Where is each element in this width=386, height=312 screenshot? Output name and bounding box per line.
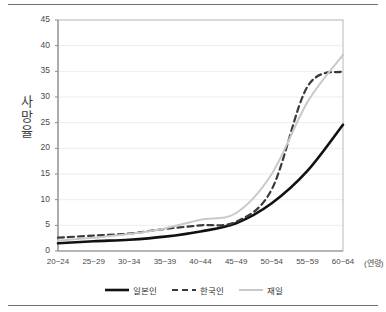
x-axis-tick-label: 45~49 xyxy=(216,257,256,266)
x-axis-tick-label: 25~29 xyxy=(74,257,114,266)
legend-swatch-icon xyxy=(104,285,130,295)
figure-container: 사망율 051015202530354045 20~2425~2930~3435… xyxy=(0,0,386,312)
x-axis-tick-label: 35~39 xyxy=(145,257,185,266)
legend-label: 한국인 xyxy=(200,284,224,296)
y-axis-tick-label: 30 xyxy=(28,91,50,101)
y-axis-tick-label: 20 xyxy=(28,142,50,152)
y-axis-tick-label: 10 xyxy=(28,194,50,204)
plot-frame xyxy=(55,20,343,251)
legend-swatch-icon xyxy=(171,285,197,295)
y-axis-tick-label: 25 xyxy=(28,117,50,127)
y-axis-tick-label: 0 xyxy=(28,245,50,255)
y-axis-tick-label: 35 xyxy=(28,65,50,75)
chart-legend: 일본인한국인재일 xyxy=(0,284,386,296)
top-divider-rule xyxy=(8,4,378,5)
legend-item[interactable]: 재일 xyxy=(238,284,283,296)
x-axis-tick-label: 20~24 xyxy=(38,257,78,266)
bottom-divider-rule xyxy=(8,305,378,306)
legend-label: 재일 xyxy=(267,284,283,296)
x-axis-tick-label: 30~34 xyxy=(109,257,149,266)
series-line xyxy=(58,55,343,241)
x-axis-tick-label: 60~64 xyxy=(323,257,363,266)
series-paths-group xyxy=(58,55,343,243)
legend-label: 일본인 xyxy=(133,284,157,296)
legend-item[interactable]: 일본인 xyxy=(104,284,157,296)
legend-swatch-icon xyxy=(238,285,264,295)
x-axis-tick-label: 55~59 xyxy=(287,257,327,266)
x-axis-unit-label: (연령) xyxy=(364,257,383,268)
gridlines-group xyxy=(58,20,343,225)
series-line xyxy=(58,71,343,237)
legend-item[interactable]: 한국인 xyxy=(171,284,224,296)
y-axis-tick-label: 40 xyxy=(28,40,50,50)
y-axis-tick-label: 45 xyxy=(28,14,50,24)
x-axis-tick-label: 50~54 xyxy=(252,257,292,266)
plot-border xyxy=(58,20,343,251)
y-axis-tick-label: 5 xyxy=(28,219,50,229)
x-axis-tick-label: 40~44 xyxy=(181,257,221,266)
y-axis-tick-label: 15 xyxy=(28,168,50,178)
chart-plot-area: 사망율 051015202530354045 20~2425~2930~3435… xyxy=(0,8,386,300)
